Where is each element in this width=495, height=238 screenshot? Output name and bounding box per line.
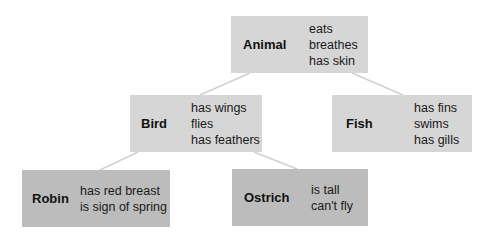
- edge-animal-bird: [200, 73, 250, 95]
- node-ostrich: Ostrich is tall can't fly: [232, 169, 368, 226]
- edge-bird-robin: [100, 152, 138, 170]
- edge-animal-fish: [352, 73, 403, 95]
- node-fish-name: Fish: [346, 116, 414, 131]
- property: can't fly: [311, 198, 353, 214]
- node-robin: Robin has red breast is sign of spring: [22, 170, 170, 227]
- node-bird-name: Bird: [141, 116, 191, 131]
- node-animal: Animal eats breathes has skin: [231, 16, 368, 73]
- property: has gills: [414, 132, 459, 148]
- property: swims: [414, 116, 459, 132]
- node-ostrich-properties: is tall can't fly: [311, 182, 353, 214]
- property: has feathers: [191, 132, 260, 148]
- node-bird-properties: has wings flies has feathers: [191, 100, 260, 148]
- property: is tall: [311, 182, 353, 198]
- node-animal-properties: eats breathes has skin: [309, 21, 358, 69]
- node-robin-properties: has red breast is sign of spring: [80, 183, 167, 215]
- property: breathes: [309, 37, 358, 53]
- node-animal-name: Animal: [243, 37, 309, 52]
- property: has fins: [414, 100, 459, 116]
- property: has wings: [191, 100, 260, 116]
- property: is sign of spring: [80, 199, 167, 215]
- property: eats: [309, 21, 358, 37]
- property: has skin: [309, 53, 358, 69]
- edge-bird-ostrich: [254, 152, 297, 169]
- node-bird: Bird has wings flies has feathers: [130, 95, 262, 152]
- node-ostrich-name: Ostrich: [244, 190, 311, 205]
- node-fish: Fish has fins swims has gills: [332, 95, 472, 152]
- property: has red breast: [80, 183, 167, 199]
- property: flies: [191, 116, 260, 132]
- node-robin-name: Robin: [32, 191, 80, 206]
- node-fish-properties: has fins swims has gills: [414, 100, 459, 148]
